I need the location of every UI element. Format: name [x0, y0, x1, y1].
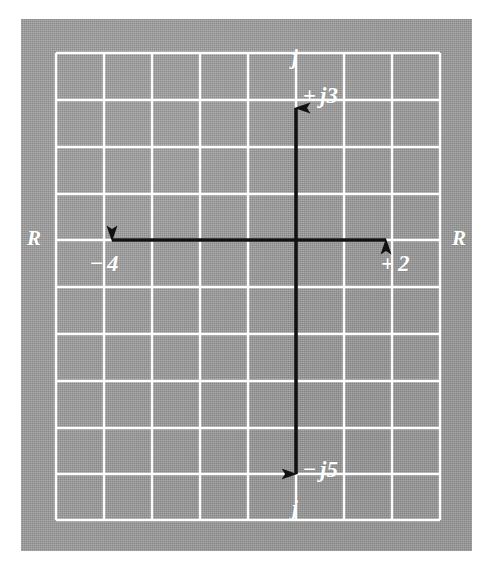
- real-positive-value: 2: [398, 251, 410, 276]
- imag-negative-value-label: −j5: [303, 458, 338, 481]
- real-positive-sign: +: [381, 252, 394, 275]
- real-negative-value: 4: [107, 251, 119, 276]
- real-negative-value-label: −4: [90, 252, 119, 275]
- imag-negative-value: j5: [320, 457, 338, 482]
- real-axis-right-label: R: [452, 228, 466, 249]
- real-negative-sign: −: [90, 252, 103, 275]
- figure-root: j +j3 R R −4 +2 −j5 j: [0, 0, 491, 586]
- imag-positive-value: j3: [320, 83, 338, 108]
- imag-axis-bottom-label: j: [292, 498, 298, 519]
- imag-axis-top-label: j: [292, 47, 298, 68]
- imag-negative-sign: −: [303, 458, 316, 481]
- real-positive-value-label: +2: [381, 252, 410, 275]
- real-axis-left-label: R: [27, 228, 41, 249]
- imag-positive-value-label: +j3: [303, 84, 338, 107]
- grid-lines: [56, 53, 440, 520]
- plot-canvas: [0, 0, 491, 586]
- imag-positive-sign: +: [303, 84, 316, 107]
